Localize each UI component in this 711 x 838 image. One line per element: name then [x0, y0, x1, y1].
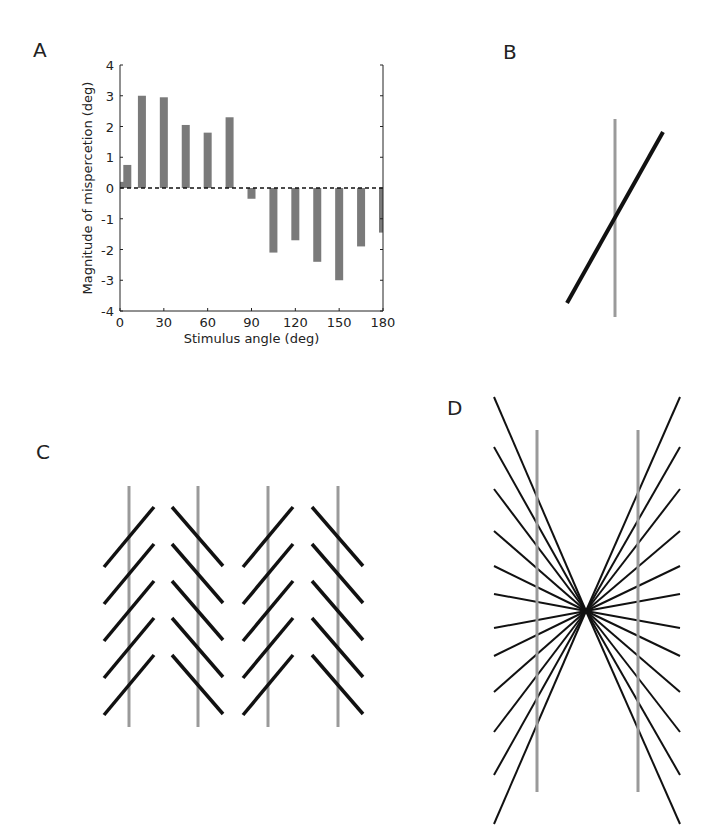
- y-tick-label: -3: [101, 273, 114, 288]
- radial-line-right: [586, 611, 680, 628]
- radial-line-left: [494, 531, 586, 611]
- radial-line-right: [586, 611, 680, 732]
- radial-line-right: [586, 397, 680, 611]
- radial-line-left: [494, 489, 586, 611]
- radial-line-left: [494, 611, 586, 824]
- y-tick-label: -1: [101, 212, 114, 227]
- x-tick-label: 90: [243, 315, 260, 330]
- x-tick-label: 180: [371, 315, 396, 330]
- radial-line-left: [494, 397, 586, 611]
- data-bar: [204, 133, 212, 188]
- radial-line-right: [586, 611, 680, 824]
- data-bar: [291, 188, 299, 240]
- x-axis-label: Stimulus angle (deg): [184, 331, 319, 346]
- radial-line-right: [586, 611, 680, 692]
- x-tick-label: 150: [327, 315, 352, 330]
- x-tick-label: 120: [283, 315, 308, 330]
- data-bar: [357, 188, 365, 246]
- single-line-illusion: [567, 119, 663, 317]
- data-bar: [226, 117, 234, 188]
- y-tick-label: 3: [106, 89, 114, 104]
- figure-canvas: 43210-1-2-3-40306090120150180Stimulus an…: [0, 0, 711, 838]
- y-tick-label: -4: [101, 304, 114, 319]
- x-tick-label: 0: [116, 315, 124, 330]
- data-bar: [248, 188, 256, 199]
- radial-line-right: [586, 489, 680, 611]
- data-bar: [138, 96, 146, 188]
- radial-line-right: [586, 531, 680, 611]
- y-tick-label: -2: [101, 243, 114, 258]
- x-tick-label: 60: [199, 315, 216, 330]
- y-axis-label: Magnitude of mispercetion (deg): [80, 82, 95, 295]
- data-bar: [269, 188, 277, 253]
- x-tick-label: 30: [156, 315, 173, 330]
- radial-line-right: [586, 566, 680, 611]
- radial-line-left: [494, 594, 586, 611]
- radial-line-right: [586, 594, 680, 611]
- data-bar: [123, 165, 131, 188]
- radial-line-right: [586, 611, 680, 775]
- data-bar: [160, 97, 168, 188]
- radial-line-right: [586, 447, 680, 611]
- y-tick-label: 1: [106, 150, 114, 165]
- misperception-bar-chart: 43210-1-2-3-40306090120150180Stimulus an…: [80, 58, 395, 346]
- zollner-illusion: [104, 486, 363, 727]
- radial-line-left: [494, 611, 586, 775]
- data-bar: [313, 188, 321, 262]
- radial-line-left: [494, 611, 586, 628]
- data-bar: [182, 125, 190, 188]
- y-tick-label: 4: [106, 58, 114, 73]
- radial-line-left: [494, 611, 586, 656]
- radial-line-right: [586, 611, 680, 656]
- y-tick-label: 2: [106, 120, 114, 135]
- radial-line-left: [494, 447, 586, 611]
- hering-illusion: [494, 397, 680, 824]
- data-bar: [379, 188, 383, 233]
- radial-line-left: [494, 566, 586, 611]
- y-tick-label: 0: [106, 181, 114, 196]
- data-bar: [335, 188, 343, 280]
- radial-line-left: [494, 611, 586, 692]
- radial-line-left: [494, 611, 586, 732]
